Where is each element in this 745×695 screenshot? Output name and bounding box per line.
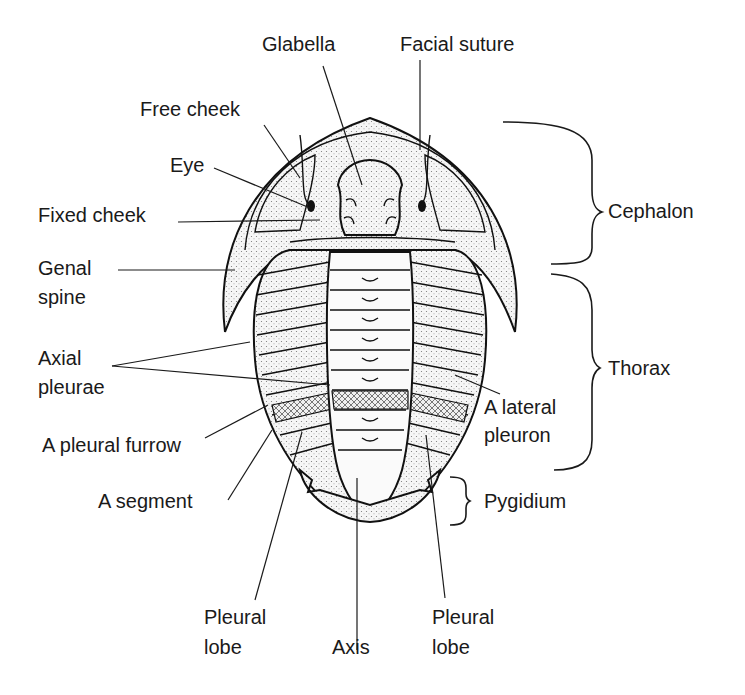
pygidium-brace bbox=[450, 477, 470, 525]
label-free-cheek: Free cheek bbox=[140, 94, 240, 124]
label-pygidium: Pygidium bbox=[484, 486, 566, 516]
label-axial-pleurae-2: pleurae bbox=[38, 372, 105, 402]
eye-left bbox=[307, 200, 315, 212]
label-eye: Eye bbox=[170, 150, 204, 180]
label-axial-pleurae-1: Axial bbox=[38, 343, 81, 373]
glabella-shape bbox=[338, 160, 402, 235]
eye-right bbox=[418, 200, 426, 212]
label-lateral-pleuron-2: pleuron bbox=[484, 420, 551, 450]
trilobite-illustration bbox=[0, 0, 745, 695]
axis-shape bbox=[327, 252, 413, 518]
trilobite-diagram: Glabella Facial suture Free cheek Eye Fi… bbox=[0, 0, 745, 695]
label-glabella: Glabella bbox=[262, 29, 335, 59]
cephalon-brace bbox=[503, 122, 602, 264]
label-pleural-lobe-right-1: Pleural bbox=[432, 602, 494, 632]
label-pleural-furrow: A pleural furrow bbox=[42, 430, 181, 460]
label-thorax: Thorax bbox=[608, 353, 670, 383]
label-pleural-lobe-left-1: Pleural bbox=[204, 602, 266, 632]
label-genal-spine-1: Genal bbox=[38, 253, 91, 283]
label-pleural-lobe-right-2: lobe bbox=[432, 632, 470, 662]
label-pleural-lobe-left-2: lobe bbox=[204, 632, 242, 662]
label-facial-suture: Facial suture bbox=[400, 29, 515, 59]
label-fixed-cheek: Fixed cheek bbox=[38, 200, 146, 230]
label-genal-spine-2: spine bbox=[38, 282, 86, 312]
label-lateral-pleuron-1: A lateral bbox=[484, 392, 556, 422]
label-cephalon: Cephalon bbox=[608, 196, 694, 226]
label-axis: Axis bbox=[332, 632, 370, 662]
label-segment: A segment bbox=[98, 486, 193, 516]
thorax-brace bbox=[551, 274, 600, 470]
